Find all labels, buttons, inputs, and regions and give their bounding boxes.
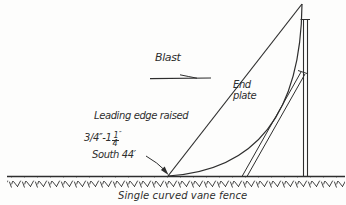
leading-edge-raised-label: Leading edge raised xyxy=(94,110,188,121)
support-post xyxy=(304,20,308,177)
dimension-prefix: 3/4″-1 xyxy=(84,132,111,143)
caption: Single curved vane fence xyxy=(118,190,247,201)
diagram-canvas xyxy=(0,0,346,205)
blast-label: Blast xyxy=(155,52,180,63)
end-plate-label: End plate xyxy=(233,79,267,101)
blast-arrow-icon xyxy=(150,75,211,79)
single-curved-vane-fence-diagram: Blast End plate Leading edge raised 3/4″… xyxy=(0,0,346,205)
south-44-label: South 44′ xyxy=(92,149,136,160)
south-leader-arrow-icon xyxy=(146,156,169,175)
brace-cap xyxy=(298,71,307,74)
dimension-label: 3/4″-11″4 xyxy=(84,130,121,148)
dimension-fraction: 1″4 xyxy=(112,130,121,148)
ground-hatching xyxy=(7,178,345,188)
